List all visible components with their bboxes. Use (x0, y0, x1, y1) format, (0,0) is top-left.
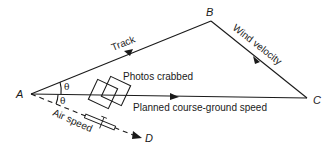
wind-velocity-line (211, 21, 307, 98)
planned-course-line (31, 94, 307, 98)
planned-course-label: Planned course-ground speed (133, 102, 267, 113)
track-label: Track (110, 33, 138, 53)
planned-course-arrow-icon (170, 93, 179, 100)
photos-crabbed-label: Photos crabbed (123, 71, 193, 82)
theta-lower-arc (56, 95, 58, 104)
point-d-label: D (145, 132, 153, 144)
air-speed-arrow-icon (132, 131, 142, 139)
theta-lower-label: θ (60, 96, 65, 106)
theta-upper-label: θ (64, 82, 69, 92)
wind-triangle-diagram: A B C D Track Wind velocity Photos crabb… (0, 0, 335, 152)
point-c-label: C (313, 94, 321, 106)
point-b-label: B (206, 6, 213, 18)
theta-upper-arc (60, 82, 61, 94)
track-line (31, 21, 211, 94)
point-a-label: A (15, 88, 23, 100)
